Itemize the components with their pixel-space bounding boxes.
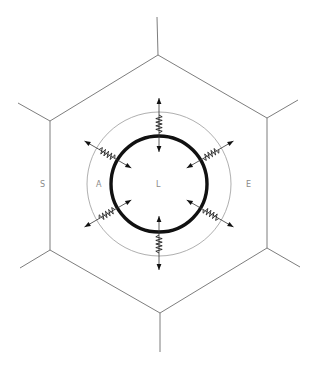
coil-spring-icon — [203, 149, 219, 161]
label-l: L — [156, 180, 161, 189]
spring-6 — [85, 141, 132, 168]
spring-5 — [85, 200, 132, 227]
label-e: E — [246, 180, 251, 189]
label-a: A — [96, 180, 102, 189]
spring-4 — [156, 216, 162, 270]
edge-top-left — [18, 103, 50, 121]
inward-arrow-icon — [187, 200, 193, 205]
edge-bottom-left — [20, 250, 50, 268]
spring-2 — [187, 141, 234, 168]
outward-arrow-icon — [227, 222, 233, 227]
outward-arrow-icon — [227, 141, 233, 146]
inward-arrow-icon — [157, 216, 162, 222]
edge-top — [157, 17, 158, 55]
outward-arrow-icon — [157, 264, 162, 270]
cell-diagram: S A L E — [0, 0, 316, 368]
coil-spring-icon — [99, 208, 115, 220]
inward-arrow-icon — [125, 163, 131, 168]
inward-arrow-icon — [125, 200, 131, 205]
spring-1 — [156, 98, 162, 152]
outward-arrow-icon — [85, 222, 91, 227]
spring-3 — [187, 200, 234, 227]
outward-arrow-icon — [157, 98, 162, 104]
edge-top-right — [267, 100, 298, 118]
edge-bottom-right — [267, 248, 300, 267]
outward-arrow-icon — [85, 141, 91, 146]
inward-arrow-icon — [187, 163, 193, 168]
inward-arrow-icon — [157, 146, 162, 152]
label-s: S — [40, 180, 45, 189]
